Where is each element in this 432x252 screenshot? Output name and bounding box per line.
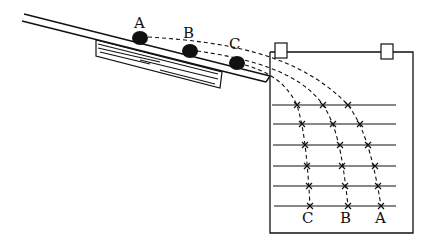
clip-right bbox=[381, 44, 393, 59]
board-label-a: A bbox=[374, 209, 386, 227]
grid-lines bbox=[272, 105, 396, 206]
board-label-b: B bbox=[340, 209, 351, 227]
board-label-c: C bbox=[302, 209, 313, 227]
clip-left bbox=[275, 43, 287, 58]
ball-label-b: B bbox=[183, 24, 194, 42]
ball-label-c: C bbox=[229, 35, 240, 53]
ball-c bbox=[229, 56, 245, 70]
ball-b bbox=[182, 44, 198, 58]
wooden-block bbox=[96, 40, 222, 88]
cross-marks bbox=[294, 102, 384, 209]
ball-a bbox=[132, 31, 148, 45]
trajectory-c bbox=[238, 63, 310, 206]
ball-label-a: A bbox=[133, 14, 145, 32]
projectile-diagram: A B C C B A bbox=[0, 0, 432, 252]
